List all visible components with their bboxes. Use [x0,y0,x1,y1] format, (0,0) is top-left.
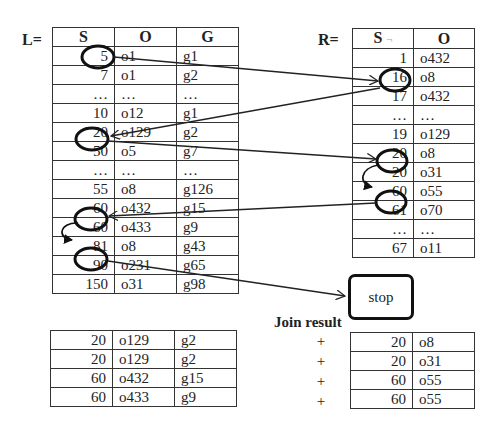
cell: o70 [414,201,475,220]
table-row: 60o433g9 [51,388,237,407]
cell: g7 [177,142,239,161]
join-result-label: Join result [274,314,342,331]
table-row: 17o432 [353,87,475,106]
cell: g15 [175,369,237,388]
table-row: ……… [53,161,239,180]
cell: 90 [53,256,115,275]
left-header-s: S [53,28,115,47]
cell: o129 [414,125,475,144]
cell: 60 [53,199,115,218]
cell: g98 [177,275,239,294]
cell: o8 [414,68,475,87]
cursor-icon: ¬ [386,33,392,45]
table-row: 150o31g98 [53,275,239,294]
cell: 60 [351,390,413,409]
cell: 60 [53,218,115,237]
cell: o129 [113,350,175,369]
cell: o31 [115,275,177,294]
cell: o12 [115,104,177,123]
table-row: …… [353,220,475,239]
cell: … [353,106,414,125]
table-row: 5o1g1 [53,47,239,66]
cell: … [53,161,115,180]
cell: o432 [113,369,175,388]
cell: 60 [351,371,413,390]
table-row: 60o432g15 [51,369,237,388]
left-header-g: G [177,28,239,47]
cell: 5 [53,47,115,66]
cell: … [177,161,239,180]
cell: … [115,85,177,104]
cell: o231 [115,256,177,275]
cell: g1 [177,47,239,66]
cell: g15 [177,199,239,218]
table-row: 61o70 [353,201,475,220]
left-table-label: L= [22,31,42,49]
cell: 61 [353,201,414,220]
cell: o11 [414,239,475,258]
left-table: S O G 5o1g1 7o1g2 ……… 10o12g1 20o129g2 5… [52,27,239,294]
table-row: ……… [53,85,239,104]
table-row: 20o129g2 [51,331,237,350]
cell: o8 [115,237,177,256]
cell: 55 [53,180,115,199]
table-row: 90o231g65 [53,256,239,275]
cell: … [53,85,115,104]
table-row: 60o433g9 [53,218,239,237]
table-row: 20o129g2 [51,350,237,369]
table-row: 10o12g1 [53,104,239,123]
cell: g126 [177,180,239,199]
cell: g2 [177,123,239,142]
cell: … [414,106,475,125]
cell: 16 [353,68,414,87]
cell: g2 [175,331,237,350]
cell: 50 [53,142,115,161]
cell: 19 [353,125,414,144]
stop-box: stop [348,274,414,320]
cell: … [177,85,239,104]
table-row: 20o31 [353,163,475,182]
cell: 20 [351,333,413,352]
cell: 10 [53,104,115,123]
cell: o8 [115,180,177,199]
table-row: 60o55 [351,371,475,390]
cell: g2 [177,66,239,85]
cell: o129 [115,123,177,142]
cell: 60 [353,182,414,201]
cell: o129 [113,331,175,350]
cell: g1 [177,104,239,123]
cell: o31 [414,163,475,182]
plus-operator: + [314,333,328,350]
table-row: 20o129g2 [53,123,239,142]
cell: … [115,161,177,180]
table-row: 1o432 [353,49,475,68]
cell: o55 [414,182,475,201]
cell: o55 [413,371,475,390]
join-result-left-table: 20o129g2 20o129g2 60o432g15 60o433g9 [50,330,237,407]
plus-operator: + [314,373,328,390]
cell: o433 [115,218,177,237]
right-table: S¬ O 1o432 16o8 17o432 …… 19o129 20o8 20… [352,28,475,258]
cell: … [414,220,475,239]
cell: 7 [53,66,115,85]
cell: o1 [115,47,177,66]
cell: 20 [353,163,414,182]
cell: o8 [413,333,475,352]
cell: o432 [414,49,475,68]
cell: o432 [414,87,475,106]
table-row: 7o1g2 [53,66,239,85]
table-row: 60o55 [351,390,475,409]
table-row: 20o31 [351,352,475,371]
cell: 20 [353,144,414,163]
right-table-label: R= [318,31,339,49]
cell: o432 [115,199,177,218]
cell: 20 [51,331,113,350]
table-row: 20o8 [351,333,475,352]
cell: 60 [51,369,113,388]
cell: 150 [53,275,115,294]
cell: o5 [115,142,177,161]
table-row: 50o5g7 [53,142,239,161]
table-row: …… [353,106,475,125]
right-header-o: O [414,29,475,49]
cell: o8 [414,144,475,163]
